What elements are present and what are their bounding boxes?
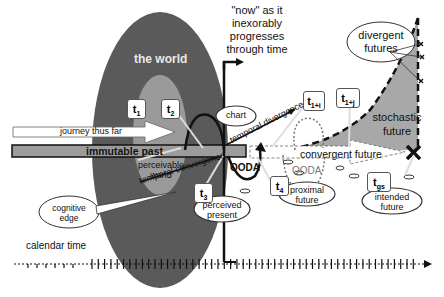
world-label: the world: [134, 52, 187, 66]
time-marker-t1: t1: [127, 99, 146, 119]
ooda-label-proximal: OODA: [292, 165, 321, 176]
convergent-future-label: convergent future: [300, 148, 382, 160]
stochastic-future-label: stochastic future: [372, 110, 422, 138]
time-marker-t1-plus-j: t1+j: [336, 88, 360, 108]
time-marker-tgs: tgs: [367, 172, 391, 192]
calendar-time-label: calendar time: [26, 240, 86, 251]
time-marker-t3: t3: [194, 183, 213, 203]
chart-label: chart: [226, 110, 246, 120]
immutable-past-label: immutable past: [86, 145, 163, 157]
divergent-x-markers: [419, 42, 424, 83]
diagram: the world "now" as it inexorably progres…: [0, 0, 444, 297]
ooda-label-present: OODA: [230, 162, 260, 173]
time-marker-t2: t2: [161, 99, 180, 119]
journey-label: journey thus far: [60, 126, 122, 136]
time-marker-t1-plus-i: t1+i: [303, 91, 325, 111]
time-marker-t4: t4: [270, 176, 289, 196]
intended-future-label: intended future: [368, 192, 416, 212]
cognitive-edge-label: cognitive edge: [46, 203, 92, 223]
now-caption: "now" as it inexorably progresses throug…: [218, 4, 296, 56]
divergent-futures-label: divergent futures: [356, 29, 406, 55]
proximal-future-label: proximal future: [283, 185, 331, 205]
